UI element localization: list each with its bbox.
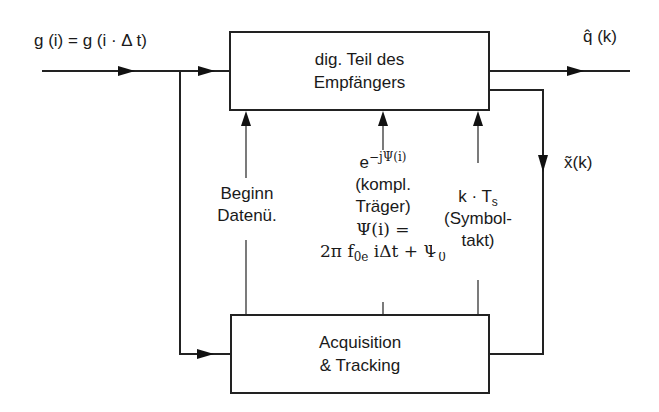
data-start-line2: Datenü.: [202, 205, 292, 227]
symbol-clock-line1: k · Ts: [432, 186, 524, 208]
acquisition-label-line1: Acquisition: [319, 331, 401, 354]
output-q-label: q̂ (k): [583, 26, 617, 48]
symbol-clock-line2: (Symbol-: [432, 208, 524, 230]
output-q-arg: (k): [597, 27, 617, 46]
receiver-digital-block: dig. Teil des Empfängers: [229, 31, 490, 111]
output-q-base: q̂: [583, 27, 592, 46]
receiver-label-line2: Empfängers: [314, 71, 406, 94]
acquisition-label-line2: & Tracking: [320, 354, 400, 377]
output-x-arg: (k): [573, 153, 593, 172]
carrier-exponential: e−jΨ(i): [313, 152, 453, 174]
output-x-base: x̃: [564, 153, 573, 172]
data-start-line1: Beginn: [202, 183, 292, 205]
acquisition-tracking-block: Acquisition & Tracking: [230, 314, 490, 394]
symbol-clock-label: k · Ts (Symbol- takt): [432, 186, 524, 252]
receiver-label-line1: dig. Teil des: [315, 48, 404, 71]
output-x-label: x̃(k): [564, 152, 592, 174]
symbol-clock-line3: takt): [432, 230, 524, 252]
input-signal-label: g (i) = g (i · Δ t): [34, 30, 147, 52]
data-start-label: Beginn Datenü.: [202, 183, 292, 227]
